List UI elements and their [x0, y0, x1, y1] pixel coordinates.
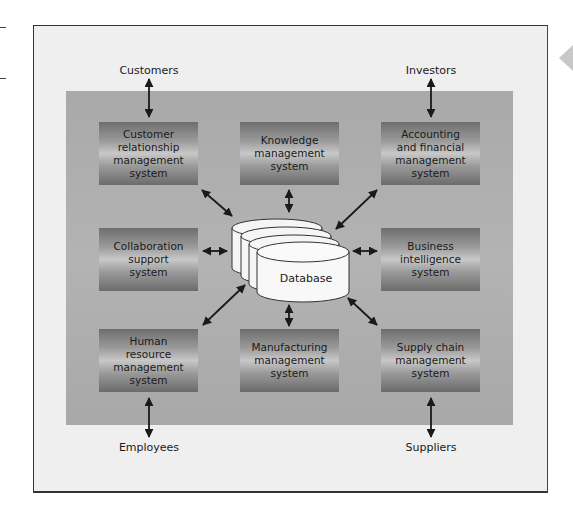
arrow-db-scm: [348, 298, 377, 325]
database-icon: [232, 219, 349, 302]
arrow-db-hrm: [203, 285, 245, 325]
database-label: Database: [266, 272, 346, 285]
arrow-afm-db: [336, 190, 377, 229]
arrow-crm-db: [202, 190, 232, 216]
